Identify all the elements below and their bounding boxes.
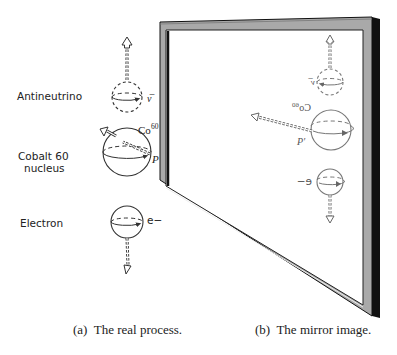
arrow-up-icon: [122, 37, 132, 48]
cobalt-symbol: Co: [138, 124, 151, 136]
caption-real-process: (a) The real process.: [73, 322, 182, 337]
left-labels: Antineutrino Cobalt 60 nucleus Electron: [17, 90, 82, 229]
real-antineutrino: ν̅: [112, 37, 155, 112]
label-cobalt-line2: nucleus: [24, 162, 65, 174]
real-cobalt-nucleus: Co 60 P: [100, 122, 159, 176]
real-electron: e−: [111, 206, 162, 274]
mirror: [160, 17, 380, 318]
point-p: P: [151, 153, 159, 165]
mirror-frame-side: [372, 17, 380, 318]
parity-violation-diagram: Antineutrino Cobalt 60 nucleus Electron …: [0, 0, 397, 355]
label-cobalt-line1: Cobalt 60: [18, 150, 69, 162]
cobalt-superscript: 60: [151, 122, 159, 131]
caption-mirror-image: (b) The mirror image.: [255, 322, 371, 337]
point-p-prime: P′: [296, 136, 306, 147]
mirror-cobalt-symbol: Co: [299, 102, 311, 113]
arrow-down-icon: [124, 265, 131, 274]
label-antineutrino: Antineutrino: [17, 90, 82, 102]
real-process: ν̅ Co 60 P e−: [100, 37, 162, 274]
mirror-cobalt-superscript: 60: [292, 101, 300, 109]
antineutrino-sphere: [112, 82, 142, 112]
label-electron: Electron: [20, 217, 63, 229]
antineutrino-symbol: ν̅: [147, 93, 155, 104]
mirror-glass: [166, 30, 363, 305]
electron-symbol: e−: [147, 214, 162, 226]
mirror-electron-symbol: e−: [297, 175, 312, 187]
electron-sphere: [111, 206, 143, 238]
